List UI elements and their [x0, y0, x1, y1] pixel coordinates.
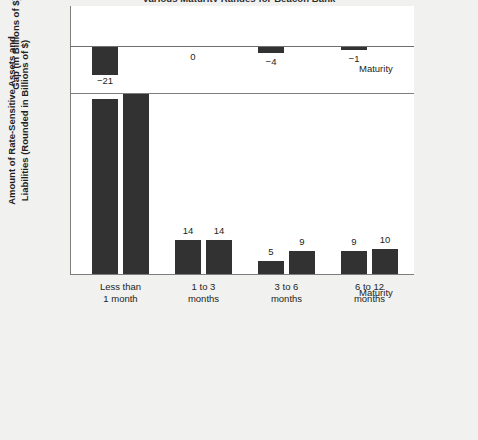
gap-value-0: −21 — [87, 75, 123, 86]
gap-bar-2 — [258, 47, 284, 53]
figure-page: Various Maturity Ranges for Beacon Bank … — [0, 0, 478, 440]
gap-y-axis-line — [70, 6, 71, 94]
gap-x-axis-caption: Maturity — [359, 63, 393, 74]
x-tick-label-0-line1: Less than — [100, 281, 141, 292]
top-x-axis-line — [70, 274, 414, 275]
top-x-axis-caption: Maturity — [359, 287, 393, 298]
bar-liabilities-1 — [206, 240, 232, 274]
gap-x-axis-line — [70, 93, 414, 94]
gap-value-2: −4 — [253, 56, 289, 67]
x-tick-label-2: 3 to 6 months — [244, 281, 329, 304]
x-tick-label-0: Less than 1 month — [78, 281, 163, 304]
gap-bar-0 — [92, 47, 118, 75]
bar-value-liabilities-3: 10 — [372, 234, 398, 245]
x-tick-label-1-line2: months — [188, 293, 219, 304]
bar-assets-3 — [341, 251, 367, 274]
bar-value-assets-1: 14 — [175, 225, 201, 236]
x-tick-label-1-line1: 1 to 3 — [192, 281, 216, 292]
bar-value-assets-2: 5 — [258, 246, 284, 257]
bar-value-assets-3: 9 — [341, 236, 367, 247]
x-tick-label-2-line2: months — [271, 293, 302, 304]
bar-liabilities-2 — [289, 251, 315, 274]
bar-assets-1 — [175, 240, 201, 274]
bar-value-liabilities-1: 14 — [206, 225, 232, 236]
bar-assets-0 — [92, 99, 118, 274]
bar-assets-2 — [258, 261, 284, 274]
figure-title: Various Maturity Ranges for Beacon Bank — [0, 0, 478, 2]
x-tick-label-2-line1: 3 to 6 — [275, 281, 299, 292]
gap-bar-3 — [341, 47, 367, 50]
gap-value-1: 0 — [175, 51, 211, 62]
x-tick-label-0-line2: 1 month — [103, 293, 137, 304]
gap-plot-area: −21 0 −4 −1 Maturity — [70, 6, 414, 94]
x-tick-label-1: 1 to 3 months — [161, 281, 246, 304]
bar-liabilities-3 — [372, 249, 398, 274]
gap-chart-y-axis-label: Gap (in Billions of $) — [10, 0, 21, 109]
bar-value-liabilities-2: 9 — [289, 236, 315, 247]
